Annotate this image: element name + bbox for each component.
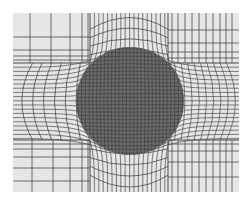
mesh-diagram [0, 0, 251, 204]
